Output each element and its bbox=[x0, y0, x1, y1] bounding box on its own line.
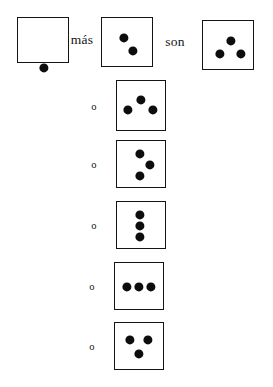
counting-dot bbox=[215, 49, 224, 58]
operator-label-mas: más bbox=[71, 32, 93, 48]
alternative-label-o: o bbox=[91, 220, 96, 231]
counting-dot bbox=[135, 171, 144, 180]
counting-dot bbox=[134, 282, 143, 291]
alternative-label-o: o bbox=[91, 159, 96, 170]
result-label-son: son bbox=[165, 34, 184, 50]
alternative-label-o: o bbox=[89, 341, 94, 352]
counting-dot bbox=[119, 33, 128, 42]
counting-dot bbox=[135, 232, 144, 241]
counting-dot bbox=[146, 282, 155, 291]
alternative-label-o: o bbox=[89, 281, 94, 292]
counting-dot bbox=[128, 46, 137, 55]
alt-arrangement-1 bbox=[116, 80, 166, 131]
worksheet-canvas: más son ooooo bbox=[0, 0, 273, 387]
alt-arrangement-4 bbox=[114, 262, 164, 310]
counting-dot bbox=[39, 63, 48, 72]
alternative-label-o: o bbox=[91, 100, 96, 111]
box-two-dots bbox=[101, 17, 153, 67]
counting-dot bbox=[134, 349, 143, 358]
counting-dot bbox=[145, 160, 154, 169]
alt-arrangement-5 bbox=[114, 322, 164, 370]
box-three-dots-sum bbox=[202, 20, 254, 70]
counting-dot bbox=[125, 335, 134, 344]
counting-dot bbox=[226, 36, 235, 45]
alt-arrangement-2 bbox=[116, 140, 166, 188]
counting-dot bbox=[236, 49, 245, 58]
box-one-dot bbox=[17, 17, 69, 63]
counting-dot bbox=[135, 149, 144, 158]
counting-dot bbox=[148, 105, 157, 114]
counting-dot bbox=[136, 95, 145, 104]
counting-dot bbox=[135, 210, 144, 219]
counting-dot bbox=[123, 105, 132, 114]
counting-dot bbox=[122, 282, 131, 291]
alt-arrangement-3 bbox=[116, 201, 166, 249]
counting-dot bbox=[143, 335, 152, 344]
counting-dot bbox=[135, 221, 144, 230]
